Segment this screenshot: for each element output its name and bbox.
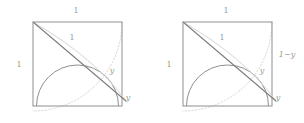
left-figure: 1 1 1 y y — [16, 6, 130, 111]
left-figure-diagonal — [33, 22, 126, 101]
left-figure-semicircle — [37, 65, 119, 106]
right-figure-diagonal-label: 1 — [219, 33, 224, 42]
left-figure-square — [33, 22, 122, 106]
right-figure-diagonal — [183, 22, 276, 101]
right-figure-top-arc-label: 1 — [223, 6, 228, 15]
left-figure-diagonal-label: 1 — [69, 33, 74, 42]
right-figure-tangent-y-label: y — [259, 66, 265, 75]
left-figure-top-arc-label: 1 — [73, 6, 78, 15]
geometry-figure-pair: 1 1 1 y y 1 1 1 1−y y y — [0, 0, 304, 123]
left-figure-left-arc-label: 1 — [16, 60, 21, 69]
right-figure-square — [183, 22, 272, 106]
left-figure-corner-y-label: y — [125, 93, 131, 102]
right-figure: 1 1 1 1−y y y — [166, 6, 295, 111]
right-figure-corner-y-label: y — [275, 93, 281, 102]
left-figure-dotted-arc — [33, 22, 122, 111]
right-figure-right-segment-label: 1−y — [279, 50, 296, 59]
right-figure-dotted-arc — [183, 22, 272, 111]
right-figure-left-arc-label: 1 — [166, 60, 171, 69]
figure-svg: 1 1 1 y y 1 1 1 1−y y y — [0, 0, 304, 123]
right-figure-semicircle — [187, 65, 269, 106]
left-figure-tangent-y-label: y — [109, 66, 115, 75]
